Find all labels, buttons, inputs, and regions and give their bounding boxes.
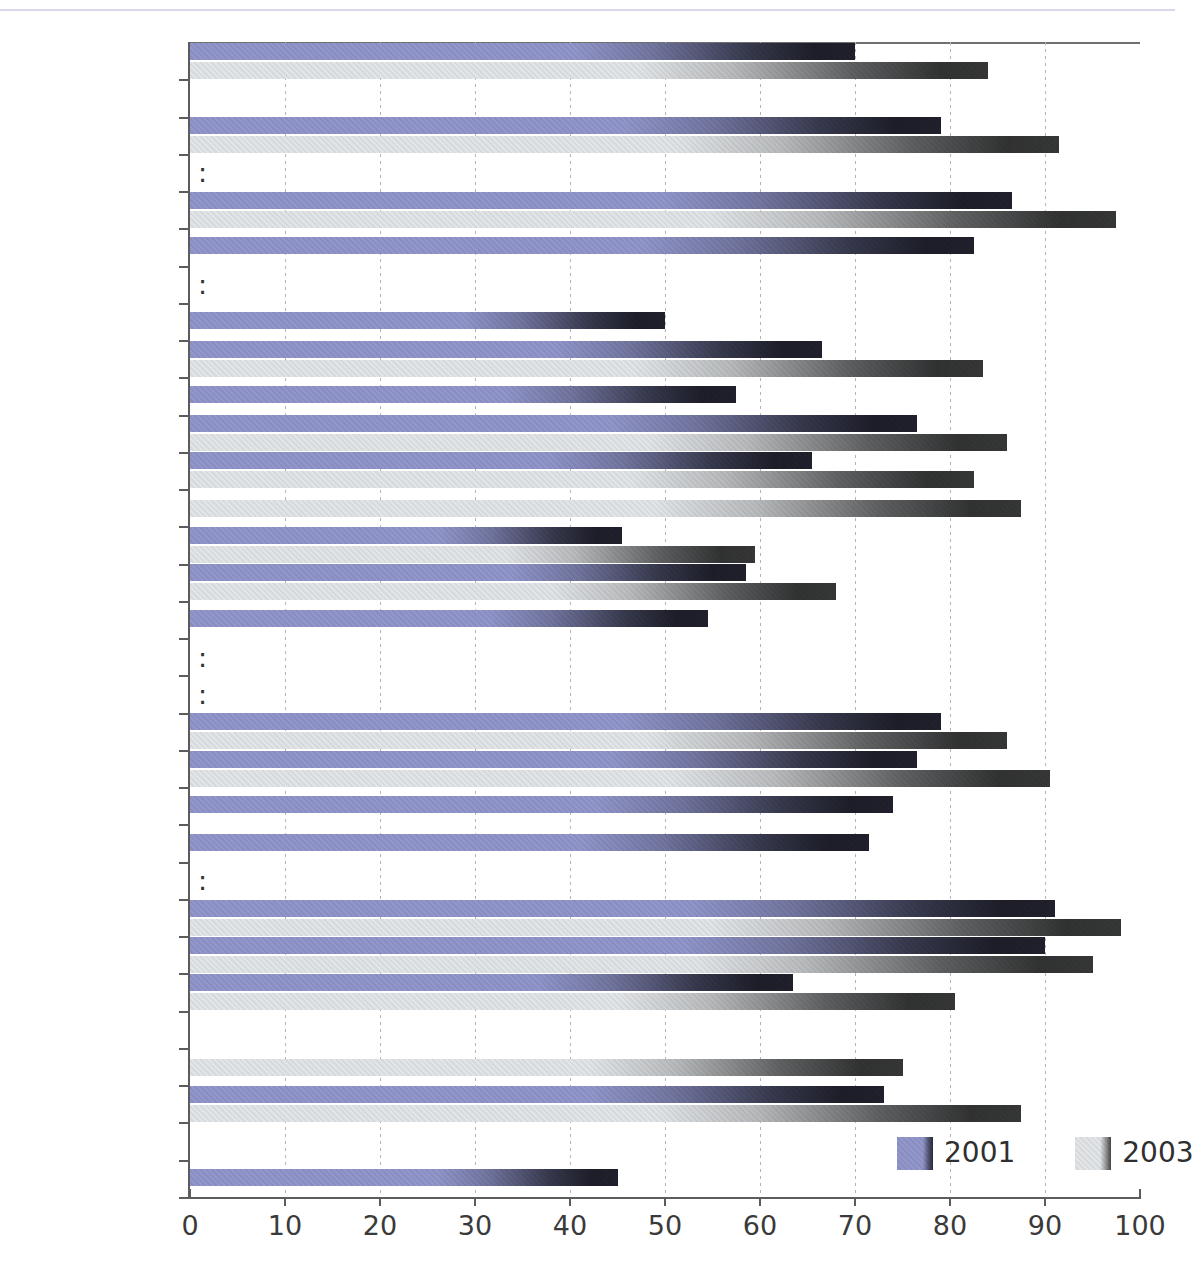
missing-value-marker: : xyxy=(198,865,207,896)
y-axis-tick xyxy=(179,824,190,826)
bar-2001 xyxy=(190,1169,618,1186)
y-axis-tick xyxy=(179,452,190,454)
bar-2001 xyxy=(190,452,812,469)
x-axis-tick xyxy=(569,1197,571,1206)
x-axis-tick-label: 60 xyxy=(743,1210,777,1241)
bar-2003 xyxy=(190,956,1093,973)
x-axis-tick-label: 50 xyxy=(648,1210,682,1241)
x-axis-tick-label: 40 xyxy=(553,1210,587,1241)
y-axis-tick xyxy=(179,750,190,752)
legend-label-2003: 2003 xyxy=(1122,1139,1193,1167)
y-axis-tick xyxy=(179,787,190,789)
y-axis-tick xyxy=(179,228,190,230)
bar-2003 xyxy=(190,583,836,600)
missing-value-marker: : xyxy=(198,641,207,672)
y-axis-tick xyxy=(179,564,190,566)
bar-2001 xyxy=(190,974,793,991)
bar-2003 xyxy=(190,136,1059,153)
bar-2001 xyxy=(190,341,822,358)
x-axis-tick xyxy=(854,1197,856,1206)
bar-2001 xyxy=(190,937,1045,954)
y-axis-tick xyxy=(179,899,190,901)
x-axis-tick xyxy=(664,1197,666,1206)
y-axis-tick xyxy=(179,862,190,864)
x-axis-tick xyxy=(189,1189,191,1199)
y-axis-tick xyxy=(179,1122,190,1124)
bar-2001 xyxy=(190,312,665,329)
bar-2001 xyxy=(190,751,917,768)
x-axis-tick xyxy=(474,1197,476,1206)
legend-entry-2001: 2001 xyxy=(897,1137,1015,1170)
y-axis-tick xyxy=(179,973,190,975)
bar-2001 xyxy=(190,713,941,730)
y-axis-tick xyxy=(179,377,190,379)
bar-2003 xyxy=(190,1105,1021,1122)
missing-value-marker: : xyxy=(198,269,207,300)
legend-entry-2003: 2003 xyxy=(1075,1137,1193,1170)
bar-2003 xyxy=(190,546,755,563)
x-axis-tick xyxy=(759,1197,761,1206)
bar-2001 xyxy=(190,1086,884,1103)
y-axis-tick xyxy=(179,1048,190,1050)
y-axis-tick xyxy=(179,489,190,491)
bar-2003 xyxy=(190,211,1116,228)
y-axis-tick xyxy=(179,415,190,417)
y-axis-tick xyxy=(179,638,190,640)
y-axis-tick xyxy=(179,1085,190,1087)
y-axis-tick xyxy=(179,154,190,156)
x-axis-tick-label: 0 xyxy=(181,1210,198,1241)
y-axis-tick xyxy=(179,936,190,938)
bar-2001 xyxy=(190,527,622,544)
bar-2001 xyxy=(190,564,746,581)
bar-2001 xyxy=(190,610,708,627)
y-axis-tick xyxy=(179,675,190,677)
bar-2003 xyxy=(190,732,1007,749)
bar-2003 xyxy=(190,434,1007,451)
plot-area: EU-15BelgiumCzech Republic:DenmarkGerman… xyxy=(190,42,1140,1197)
y-axis-tick xyxy=(179,117,190,119)
x-axis-tick-label: 30 xyxy=(458,1210,492,1241)
legend-swatch-2003-icon xyxy=(1075,1137,1111,1170)
legend-swatch-2001-icon xyxy=(897,1137,933,1170)
x-axis-tick-label: 70 xyxy=(838,1210,872,1241)
bar-2003 xyxy=(190,500,1021,517)
bar-2003 xyxy=(190,62,988,79)
legend-label-2001: 2001 xyxy=(944,1139,1015,1167)
x-axis-tick xyxy=(949,1197,951,1206)
top-divider-rule xyxy=(0,9,1175,11)
bar-2001 xyxy=(190,117,941,134)
bar-2001 xyxy=(190,43,855,60)
y-axis-tick xyxy=(179,340,190,342)
y-axis-tick xyxy=(179,191,190,193)
missing-value-marker: : xyxy=(198,157,207,188)
y-axis-tick xyxy=(179,526,190,528)
bar-2003 xyxy=(190,1059,903,1076)
bar-2001 xyxy=(190,900,1055,917)
y-axis-tick xyxy=(179,303,190,305)
x-axis-tick-label: 20 xyxy=(363,1210,397,1241)
bar-2003 xyxy=(190,770,1050,787)
bar-2001 xyxy=(190,796,893,813)
bar-2003 xyxy=(190,360,983,377)
x-axis-tick-label: 10 xyxy=(268,1210,302,1241)
bar-2003 xyxy=(190,919,1121,936)
bar-2001 xyxy=(190,192,1012,209)
x-axis-tick xyxy=(284,1197,286,1206)
y-axis-tick xyxy=(179,79,190,81)
bar-2003 xyxy=(190,471,974,488)
x-axis-tick-label: 100 xyxy=(1114,1210,1166,1241)
x-axis-tick-label: 90 xyxy=(1028,1210,1062,1241)
y-axis-tick xyxy=(179,713,190,715)
y-axis-tick xyxy=(179,601,190,603)
x-axis-tick xyxy=(1044,1197,1046,1206)
y-axis-tick xyxy=(179,266,190,268)
chart-legend: 2001 2003 xyxy=(897,1133,1194,1173)
bar-2001 xyxy=(190,386,736,403)
missing-value-marker: : xyxy=(198,679,207,710)
x-axis-tick xyxy=(1139,1189,1141,1199)
bar-2001 xyxy=(190,415,917,432)
bar-2001 xyxy=(190,834,869,851)
y-axis-tick xyxy=(179,1160,190,1162)
bar-2001 xyxy=(190,237,974,254)
